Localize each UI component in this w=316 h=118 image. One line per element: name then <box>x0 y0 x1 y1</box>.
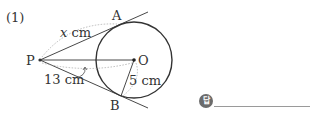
problem-number: (1) <box>6 10 24 25</box>
label-pa-length: x cm <box>60 25 91 40</box>
point-p <box>38 58 41 61</box>
label-b: B <box>110 98 120 113</box>
label-pa-unit: cm <box>67 25 91 40</box>
label-o: O <box>138 53 149 68</box>
point-o <box>132 58 136 62</box>
label-a: A <box>111 8 122 23</box>
label-po-length: 13 cm <box>44 72 84 87</box>
label-p: P <box>26 53 35 68</box>
label-ob-length: 5 cm <box>129 73 161 88</box>
tangent-diagram: (1) P O A B x cm 13 cm 5 cm <box>0 0 316 118</box>
answer-icon: 답 <box>199 94 213 108</box>
dimension-arc-po <box>42 63 132 69</box>
tangent-line-pa <box>40 12 148 60</box>
answer-blank[interactable] <box>214 106 310 107</box>
